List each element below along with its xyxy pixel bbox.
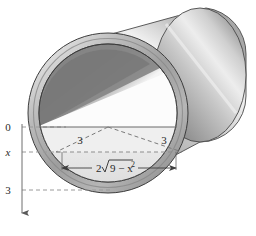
- chord-label-exponent: 2: [131, 160, 135, 169]
- radius-label-right: 3: [161, 134, 167, 146]
- cylinder-solid: [28, 8, 246, 193]
- radius-label-left: 3: [77, 134, 83, 146]
- figure-container: 0 x 3 3 3 2 9 − x 2: [0, 0, 256, 236]
- chord-label-radicand: 9 − x: [110, 162, 133, 174]
- axis-tick-label-x: x: [5, 146, 11, 158]
- cylinder-diagram-svg: 0 x 3 3 3 2 9 − x 2: [0, 0, 256, 236]
- axis-tick-label-0: 0: [5, 121, 11, 133]
- chord-label-coefficient: 2: [96, 162, 102, 174]
- axis-tick-label-3: 3: [5, 184, 11, 196]
